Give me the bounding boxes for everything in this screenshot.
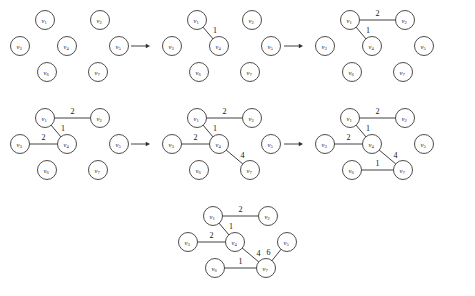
edge-weight-v1-v2: 2 (71, 107, 75, 116)
edge-weight-v4-v7: 4 (241, 151, 245, 160)
graph-edge-v1-v4 (219, 223, 229, 234)
edge-weight-v1-v4: 1 (366, 124, 370, 133)
mst-construction-figure: v1v2v3v4v5v6v7v1v2v3v4v5v6v7v1v2v3v4v5v6… (0, 0, 475, 296)
nodes-layer: v1v2v3v4v5v6v7v1v2v3v4v5v6v7v1v2v3v4v5v6… (11, 11, 434, 278)
arrow-2-head (299, 44, 303, 49)
edge-weight-v3-v4: 2 (194, 133, 198, 142)
edge-weight-v3-v4: 2 (210, 231, 214, 240)
edge-weight-v6-v7: 1 (376, 159, 380, 168)
graph-edge-v1-v4 (356, 125, 366, 136)
graph-sequence-canvas: v1v2v3v4v5v6v7v1v2v3v4v5v6v7v1v2v3v4v5v6… (0, 0, 475, 296)
edge-weight-v1-v2: 2 (376, 9, 380, 18)
graph-edge-v1-v4 (203, 125, 213, 136)
edge-weight-v4-v7: 4 (257, 249, 261, 258)
graph-edge-v1-v4 (356, 27, 366, 38)
edge-weight-v3-v4: 2 (347, 133, 351, 142)
step-arrows-layer (131, 44, 303, 147)
edge-weight-v1-v2: 2 (223, 107, 227, 116)
edge-weight-v1-v2: 2 (239, 205, 243, 214)
edge-weight-v4-v7: 4 (394, 151, 398, 160)
graph-edge-v1-v4 (51, 125, 61, 136)
edge-weight-v1-v4: 1 (366, 26, 370, 35)
graph-edge-v1-v4 (203, 27, 213, 38)
edge-weight-v1-v4: 1 (213, 26, 217, 35)
arrow-3-head (146, 142, 150, 147)
edge-weight-v1-v2: 2 (376, 107, 380, 116)
edge-weight-v7-v5: 6 (267, 248, 271, 257)
edge-weight-v1-v4: 1 (61, 124, 65, 133)
edge-weight-v1-v4: 1 (213, 124, 217, 133)
graph-edge-v7-v5 (272, 249, 281, 260)
arrow-1-head (146, 44, 150, 49)
edge-weight-v6-v7: 1 (239, 257, 243, 266)
arrow-4-head (299, 142, 303, 147)
edge-weight-v3-v4: 2 (42, 133, 46, 142)
edge-weight-v1-v4: 1 (229, 222, 233, 231)
